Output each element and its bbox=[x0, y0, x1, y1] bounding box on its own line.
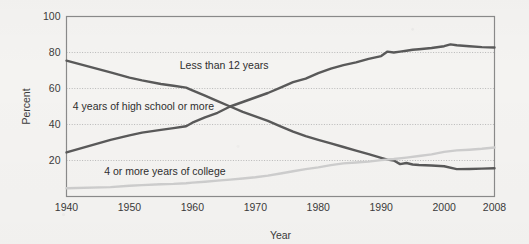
y-tick-label: 100 bbox=[43, 10, 61, 22]
y-tick-label: 40 bbox=[49, 118, 61, 130]
x-tick-label: 1990 bbox=[370, 201, 394, 213]
x-axis-tick-labels: 19401950196019701980199020002008 bbox=[55, 201, 507, 213]
y-axis-title: Percent bbox=[20, 88, 32, 124]
x-tick-label: 1950 bbox=[118, 201, 142, 213]
series-line-1 bbox=[67, 44, 495, 152]
series-line-0 bbox=[67, 61, 495, 170]
x-tick-label: 1970 bbox=[244, 201, 268, 213]
y-axis-tick-labels: 20406080100 bbox=[43, 10, 61, 166]
y-tick-label: 80 bbox=[49, 46, 61, 58]
x-tick-label: 1980 bbox=[307, 201, 331, 213]
x-tick-label: 1960 bbox=[181, 201, 205, 213]
line-chart: 19401950196019701980199020002008 2040608… bbox=[0, 0, 529, 244]
x-tick-label: 2000 bbox=[432, 201, 456, 213]
series-label-0: Less than 12 years bbox=[180, 59, 269, 71]
y-tick-label: 20 bbox=[49, 154, 61, 166]
y-tick-label: 60 bbox=[49, 82, 61, 94]
figure-container: 19401950196019701980199020002008 2040608… bbox=[0, 0, 529, 244]
series-label-2: 4 or more years of college bbox=[104, 165, 226, 177]
series-inline-labels: Less than 12 years4 years of high school… bbox=[73, 59, 269, 177]
x-tick-label: 2008 bbox=[483, 201, 507, 213]
x-tick-label: 1940 bbox=[55, 201, 79, 213]
series-label-1: 4 years of high school or more bbox=[73, 100, 214, 112]
x-axis-title: Year bbox=[270, 229, 292, 241]
